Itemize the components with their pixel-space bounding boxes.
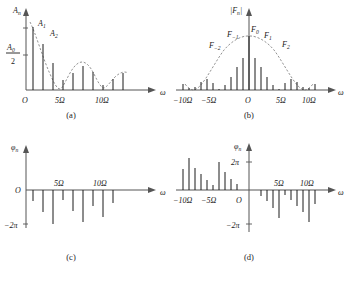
ytick-label-a0-denominator: 2 [11, 57, 15, 66]
chart-d-yticks: 2π −2π [226, 158, 252, 230]
xtick-label-c-10: 10Ω [93, 179, 107, 188]
ytick-label-c-0: O [15, 186, 21, 195]
caption-b: (b) [229, 110, 269, 120]
ytick-label-c-m2pi: −2π [4, 221, 18, 230]
chart-a-svg: A0 2 An ω O 5Ω 10Ω [0, 0, 176, 112]
x-axis-label-c: ω [160, 188, 166, 197]
xtick-label-b-5: 5Ω [276, 96, 286, 105]
chart-b-xticks: −10Ω −5Ω O 5Ω 10Ω [173, 96, 316, 105]
y-axis-arrow-a [23, 8, 29, 16]
chart-d-xticks: −10Ω −5Ω O 5Ω 10Ω [173, 179, 314, 205]
y-axis-label-a: An [12, 6, 21, 16]
panel-c: φn ω O −2π 5Ω 10Ω [0, 140, 176, 260]
chart-a-ytick: A0 2 [6, 28, 28, 66]
annotation-a1: A1 [37, 19, 46, 29]
ytick-label-d-m2pi: −2π [226, 221, 240, 230]
caption-d: (d) [229, 252, 269, 262]
chart-b-stems [183, 36, 315, 90]
panel-b: |Fn| ω −10Ω −5Ω O 5Ω 10Ω [172, 0, 351, 112]
annotation-b-f2: F2 [281, 40, 290, 50]
envelope-curve-a [30, 22, 128, 89]
xtick-label-d-m10: −10Ω [173, 196, 192, 205]
x-axis-label-b: ω [338, 88, 344, 97]
x-axis-arrow-a [148, 87, 156, 93]
xtick-label-c-5: 5Ω [54, 179, 64, 188]
chart-b-axes [176, 8, 336, 93]
y-axis-label-c: φn [11, 143, 18, 153]
xtick-label-d-m5: −5Ω [201, 196, 216, 205]
y-axis-arrow-d [246, 143, 252, 151]
x-axis-label-a: ω [160, 88, 166, 97]
panel-a: A0 2 An ω O 5Ω 10Ω [0, 0, 176, 112]
xtick-label-d-5: 5Ω [274, 179, 284, 188]
xtick-label-b-0: O [245, 96, 251, 105]
x-axis-arrow-d [328, 187, 336, 193]
chart-c-svg: φn ω O −2π 5Ω 10Ω [0, 140, 176, 260]
y-axis-label-d: φn [234, 142, 241, 152]
y-axis-label-b: |Fn| [230, 6, 242, 16]
xtick-label-b-m5: −5Ω [201, 96, 216, 105]
chart-c-yticks: O −2π [4, 186, 28, 230]
chart-c-stems [33, 190, 113, 224]
xtick-label-a-10: 10Ω [95, 96, 109, 105]
ytick-label-d-2pi: 2π [231, 158, 240, 167]
annotation-b-f0: F0 [250, 25, 259, 35]
caption-c: (c) [51, 252, 91, 262]
annotation-b-fm1: F−1 [226, 30, 239, 40]
chart-b-svg: |Fn| ω −10Ω −5Ω O 5Ω 10Ω [172, 0, 351, 112]
x-axis-label-d: ω [338, 188, 344, 197]
caption-a: (a) [51, 110, 91, 120]
xtick-label-b-10: 10Ω [302, 96, 316, 105]
chart-a-xticks: O 5Ω 10Ω [22, 96, 109, 105]
y-axis-arrow-b [246, 8, 252, 16]
chart-c-axes [23, 145, 156, 228]
panel-d: φn ω 2π −2π −10Ω −5Ω O 5Ω 10Ω [172, 140, 351, 260]
ytick-label-a0-numerator: A0 [6, 43, 15, 53]
chart-d-svg: φn ω 2π −2π −10Ω −5Ω O 5Ω 10Ω [172, 140, 351, 260]
xtick-label-d-10: 10Ω [300, 179, 314, 188]
x-axis-arrow-c [148, 187, 156, 193]
x-axis-arrow-b [328, 87, 336, 93]
chart-c-axis-titles: φn ω [11, 143, 166, 197]
chart-b-axis-titles: |Fn| ω [230, 6, 344, 97]
chart-d-stems-positive [183, 158, 237, 190]
annotation-b-fm2: F−2 [208, 41, 221, 51]
chart-a-axis-titles: An ω [12, 6, 166, 97]
annotation-a2: A2 [49, 29, 58, 39]
chart-c-xticks: 5Ω 10Ω [54, 179, 107, 188]
xtick-label-b-m10: −10Ω [173, 96, 192, 105]
chart-a-annotations: A1 A2 [37, 19, 58, 39]
y-axis-arrow-c [23, 145, 29, 153]
annotation-b-f1: F1 [263, 31, 272, 41]
xtick-label-d-0: O [236, 196, 242, 205]
figure-container: A0 2 An ω O 5Ω 10Ω [0, 0, 351, 282]
chart-a-stems [33, 27, 123, 90]
chart-d-stems-negative [261, 190, 315, 222]
xtick-label-a-0: O [22, 96, 28, 105]
xtick-label-a-5: 5Ω [55, 96, 65, 105]
